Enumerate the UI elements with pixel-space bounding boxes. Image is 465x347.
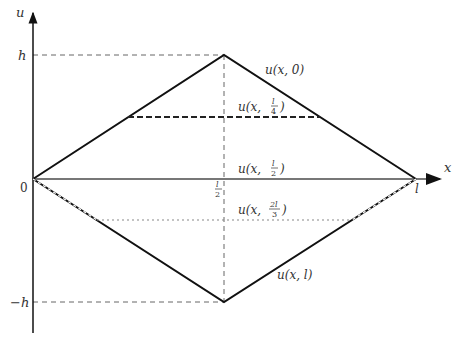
x-end-label: l: [415, 182, 419, 196]
origin-label: 0: [20, 181, 28, 195]
label-u-x-l4: u(x, l 4 ): [238, 97, 285, 116]
svg-text:u(x,: u(x,: [238, 100, 261, 114]
wave-diagram: u x 0 l h −h l 2 u(x, 0) u(x, l 4 ) u(x,…: [0, 0, 465, 347]
svg-text:2l: 2l: [269, 200, 278, 209]
svg-text:u(x,: u(x,: [238, 203, 261, 217]
h-label: h: [18, 48, 26, 63]
label-u-x-0: u(x, 0): [265, 63, 304, 77]
svg-text:3: 3: [272, 210, 277, 219]
svg-text:4: 4: [271, 107, 276, 116]
svg-text:u(x,: u(x,: [238, 162, 261, 176]
svg-text:2: 2: [215, 190, 220, 199]
svg-text:): ): [279, 162, 285, 176]
label-u-x-l2: u(x, l 2 ): [238, 159, 285, 178]
svg-text:2: 2: [271, 169, 276, 178]
svg-text:): ): [279, 100, 285, 114]
svg-text:): ): [281, 203, 287, 217]
svg-text:l: l: [272, 159, 275, 168]
x-mid-label: l 2: [215, 180, 222, 199]
x-axis-label: x: [444, 160, 452, 175]
label-u-x-l: u(x, l): [277, 268, 313, 282]
neg-h-label: −h: [10, 295, 29, 310]
svg-text:l: l: [216, 180, 219, 189]
label-u-x-2l3: u(x, 2l 3 ): [238, 200, 287, 219]
y-axis-label: u: [16, 5, 24, 20]
svg-text:l: l: [272, 97, 275, 106]
